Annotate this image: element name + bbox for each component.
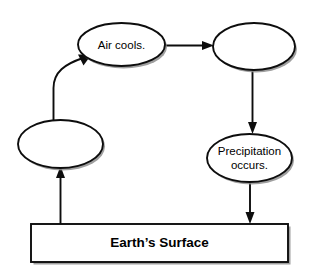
diagram-canvas: Air cools. Precipitation occurs. Earth’s… xyxy=(0,0,314,279)
node-condensation-blank[interactable] xyxy=(213,23,297,73)
node-label-earths-surface: Earth’s Surface xyxy=(110,235,209,250)
connector-precipitation-to-surface xyxy=(246,182,255,224)
node-label-precipitation-line2: occurs. xyxy=(231,159,268,171)
node-evaporation-blank[interactable] xyxy=(18,120,105,171)
connector-evaporation-to-air-cools xyxy=(54,55,92,121)
node-air-cools[interactable]: Air cools. xyxy=(78,23,167,69)
connector-air-cools-to-condensation xyxy=(165,41,214,50)
connector-curve xyxy=(54,58,84,120)
node-precipitation-occurs[interactable]: Precipitation occurs. xyxy=(207,134,294,185)
connector-surface-to-evaporation xyxy=(56,166,65,224)
ellipse-outline xyxy=(213,23,295,70)
water-cycle-diagram: Air cools. Precipitation occurs. Earth’s… xyxy=(0,0,314,279)
node-label-air-cools: Air cools. xyxy=(98,39,145,51)
node-earths-surface[interactable]: Earth’s Surface xyxy=(31,224,291,265)
ellipse-outline xyxy=(207,134,292,182)
arrow-head-down-icon xyxy=(248,122,257,134)
ellipse-outline xyxy=(18,120,103,168)
arrow-head-down-icon xyxy=(246,212,255,224)
connector-condensation-to-precipitation xyxy=(248,70,257,134)
node-label-precipitation-line1: Precipitation xyxy=(218,145,281,157)
